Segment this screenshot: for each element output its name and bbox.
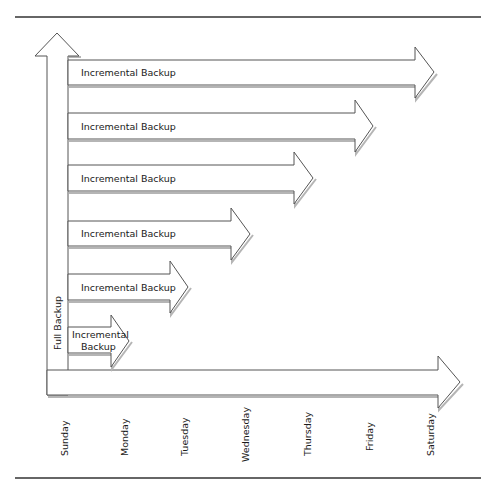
incremental-label: Incremental Backup <box>81 282 176 293</box>
day-label-wednesday: Wednesday <box>240 407 251 462</box>
backup-diagram: Full Backup Incremental Backup Increment… <box>0 0 498 490</box>
incremental-arrow-tuesday: Incremental Backup <box>68 261 191 315</box>
timeline-arrow <box>47 356 463 410</box>
day-label-sunday: Sunday <box>59 420 70 456</box>
day-label-saturday: Saturday <box>425 413 436 456</box>
incremental-label: Incremental Backup <box>81 121 176 132</box>
incremental-arrow-wednesday: Incremental Backup <box>68 208 253 262</box>
incremental-arrow-monday: Incremental Backup <box>68 315 132 369</box>
incremental-label: Incremental Backup <box>81 228 176 239</box>
day-label-tuesday: Tuesday <box>179 417 190 457</box>
incremental-label: Incremental Backup <box>81 67 176 78</box>
incremental-label: Incremental Backup <box>81 173 176 184</box>
full-backup-label: Full Backup <box>52 296 63 350</box>
incremental-label-line1: Incremental <box>72 329 129 340</box>
day-label-monday: Monday <box>119 418 130 456</box>
incremental-arrow-thursday: Incremental Backup <box>68 152 316 206</box>
day-label-thursday: Thursday <box>302 411 313 457</box>
incremental-label-line2: Backup <box>81 341 116 352</box>
incremental-arrow-friday: Incremental Backup <box>68 100 376 154</box>
day-label-friday: Friday <box>364 422 375 451</box>
incremental-arrow-saturday: Incremental Backup <box>68 47 437 100</box>
